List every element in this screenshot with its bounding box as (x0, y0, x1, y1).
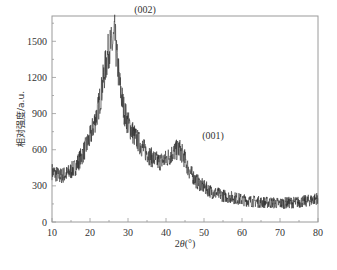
x-tick-label: 80 (313, 227, 323, 238)
xrd-curve (52, 15, 318, 209)
x-tick-label: 60 (237, 227, 247, 238)
x-tick-label: 30 (123, 227, 133, 238)
x-tick-label: 70 (275, 227, 285, 238)
x-tick-label: 40 (161, 227, 171, 238)
y-tick-label: 600 (32, 144, 47, 155)
x-axis-ticks: 1020304050607080 (47, 218, 323, 238)
x-tick-label: 20 (85, 227, 95, 238)
xrd-chart: 1020304050607080 030060090012001500 (002… (0, 0, 337, 270)
y-tick-label: 900 (32, 108, 47, 119)
peak-label-002: (002) (134, 4, 156, 16)
peak-label-001: (001) (202, 130, 224, 142)
y-tick-label: 1500 (27, 36, 47, 47)
x-title-suffix: (°) (185, 238, 196, 250)
y-axis-title: 相对强度/a.u. (15, 91, 26, 147)
y-tick-label: 300 (32, 180, 47, 191)
x-tick-label: 50 (199, 227, 209, 238)
x-axis-title: 2θ(°) (175, 238, 196, 250)
plot-frame (52, 16, 318, 222)
data-series (52, 15, 318, 209)
plot-area: 1020304050607080 030060090012001500 (27, 15, 323, 238)
x-tick-label: 10 (47, 227, 57, 238)
y-tick-label: 0 (42, 217, 47, 228)
y-tick-label: 1200 (27, 72, 47, 83)
